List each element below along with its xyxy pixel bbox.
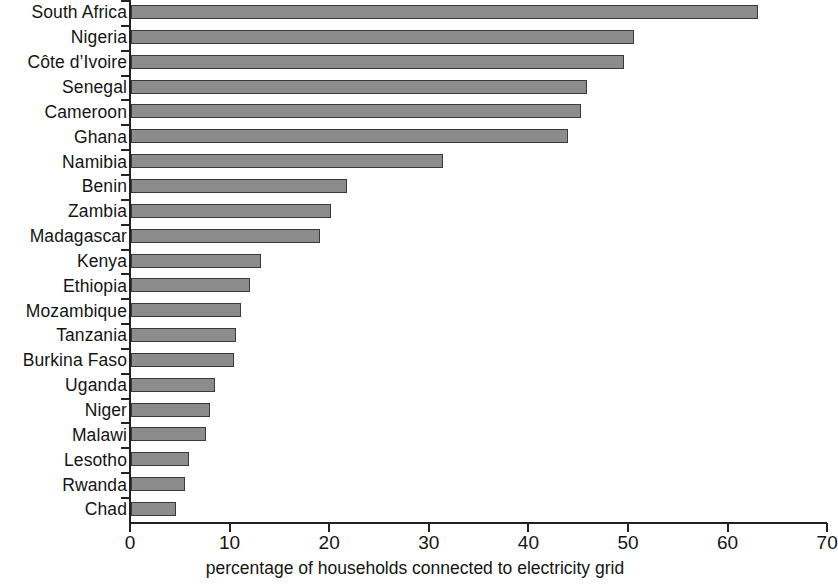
bar-row: Benin: [0, 174, 830, 199]
x-axis-tick-label: 40: [518, 532, 539, 554]
x-axis-tick: [826, 523, 828, 532]
bar-row: Senegal: [0, 75, 830, 100]
bar: [131, 452, 189, 466]
category-label: Namibia: [62, 151, 127, 172]
x-axis-tick-label: 0: [125, 532, 136, 554]
bar-row: Cameroon: [0, 99, 830, 124]
bar: [131, 129, 568, 143]
category-label: Uganda: [65, 375, 127, 396]
category-label: Mozambique: [26, 300, 127, 321]
bar-row: Kenya: [0, 249, 830, 274]
bar-row: Malawi: [0, 422, 830, 447]
bar: [131, 179, 347, 193]
bar-row: Ethiopia: [0, 273, 830, 298]
bar: [131, 278, 250, 292]
bar-row: Lesotho: [0, 447, 830, 472]
bar-row: Côte d’Ivoire: [0, 50, 830, 75]
bar-row: Ghana: [0, 124, 830, 149]
bar: [131, 104, 581, 118]
x-axis-tick: [527, 523, 529, 532]
bar-row: Mozambique: [0, 298, 830, 323]
category-label: Nigeria: [71, 27, 127, 48]
category-label: Niger: [85, 400, 127, 421]
bar: [131, 477, 185, 491]
category-label: Chad: [85, 499, 127, 520]
x-axis-tick-label: 10: [219, 532, 240, 554]
bar: [131, 254, 261, 268]
x-axis-tick-label: 20: [319, 532, 340, 554]
bar-row: Chad: [0, 497, 830, 522]
bar-row: Nigeria: [0, 25, 830, 50]
x-axis-tick-label: 50: [617, 532, 638, 554]
x-axis-tick-label: 30: [418, 532, 439, 554]
category-label: Zambia: [68, 201, 127, 222]
category-label: Côte d’Ivoire: [27, 52, 127, 73]
bar: [131, 303, 241, 317]
category-label: Ghana: [74, 126, 127, 147]
x-axis-title: percentage of households connected to el…: [0, 558, 830, 579]
x-axis-tick: [627, 523, 629, 532]
bar: [131, 403, 210, 417]
x-axis-tick: [328, 523, 330, 532]
category-label: Tanzania: [56, 325, 127, 346]
category-label: Benin: [82, 176, 127, 197]
category-label: Malawi: [72, 424, 127, 445]
bar: [131, 378, 215, 392]
bar: [131, 229, 320, 243]
category-label: Senegal: [62, 76, 127, 97]
category-label: Lesotho: [64, 449, 127, 470]
category-label: Madagascar: [30, 226, 127, 247]
x-axis-tick: [229, 523, 231, 532]
x-axis-tick: [727, 523, 729, 532]
bar-row: Niger: [0, 398, 830, 423]
bar-rows: South AfricaNigeriaCôte d’IvoireSenegalC…: [0, 0, 830, 523]
bar-row: Rwanda: [0, 472, 830, 497]
bar: [131, 502, 176, 516]
category-label: South Africa: [31, 2, 127, 23]
category-label: Cameroon: [44, 101, 127, 122]
bar-row: Uganda: [0, 373, 830, 398]
bar: [131, 204, 331, 218]
bar: [131, 154, 443, 168]
bar-row: Burkina Faso: [0, 348, 830, 373]
bar: [131, 55, 624, 69]
category-label: Rwanda: [62, 474, 127, 495]
x-axis-tick: [129, 523, 131, 532]
bar-row: Zambia: [0, 199, 830, 224]
bar-row: Madagascar: [0, 224, 830, 249]
category-label: Ethiopia: [63, 275, 127, 296]
bar: [131, 80, 587, 94]
x-axis-tick-label: 70: [817, 532, 838, 554]
bar: [131, 30, 634, 44]
bar-row: Namibia: [0, 149, 830, 174]
x-axis-tick: [428, 523, 430, 532]
category-label: Kenya: [77, 250, 127, 271]
bar: [131, 328, 236, 342]
bar: [131, 5, 758, 19]
bar-row: South Africa: [0, 0, 830, 25]
category-label: Burkina Faso: [23, 350, 127, 371]
bar-row: Tanzania: [0, 323, 830, 348]
bar: [131, 427, 206, 441]
bar: [131, 353, 234, 367]
x-axis-tick-label: 60: [717, 532, 738, 554]
